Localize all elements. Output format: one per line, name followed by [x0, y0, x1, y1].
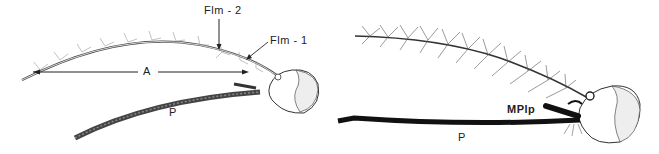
male-head-drawing	[330, 0, 659, 154]
label-antenna-length-a: A	[143, 65, 151, 77]
right-panel: MPlp P	[330, 0, 659, 154]
figure: Flm - 2 Flm - 1 A P	[0, 0, 659, 154]
label-flm-1: Flm - 1	[270, 34, 308, 46]
label-flm-2: Flm - 2	[204, 4, 242, 16]
label-maxillary-palp: MPlp	[507, 103, 535, 115]
label-proboscis-right: P	[458, 131, 466, 143]
left-panel: Flm - 2 Flm - 1 A P	[0, 0, 330, 154]
label-proboscis-left: P	[169, 106, 177, 118]
female-head-drawing	[0, 0, 330, 154]
